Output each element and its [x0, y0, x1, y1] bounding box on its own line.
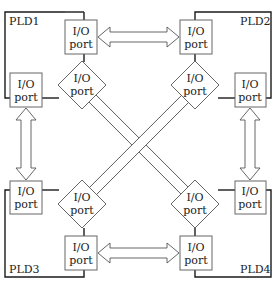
svg-text:port: port: [184, 38, 208, 51]
svg-text:port: port: [183, 85, 207, 98]
svg-text:I/O: I/O: [73, 72, 90, 85]
pld3-port-left: I/O port: [10, 181, 42, 214]
pld4-port-right: I/O port: [235, 181, 266, 214]
pld-interconnect-diagram: PLD1 PLD2 PLD3 PLD4 I/O port I/O port I/…: [0, 0, 277, 289]
pld3-port-bottom: I/O port: [65, 236, 97, 270]
svg-text:I/O: I/O: [17, 78, 34, 91]
svg-text:I/O: I/O: [17, 185, 34, 198]
svg-text:port: port: [69, 38, 93, 51]
svg-text:I/O: I/O: [241, 185, 258, 198]
pld2-port-top: I/O port: [180, 20, 212, 54]
pld4-port-bottom: I/O port: [180, 236, 212, 270]
pld2-label: PLD2: [240, 15, 271, 28]
pld3-label: PLD3: [9, 263, 40, 276]
arrow-pld1-pld3: [16, 108, 36, 180]
svg-text:port: port: [14, 91, 38, 104]
arrow-pld2-pld4: [240, 108, 260, 180]
arrow-pld3-pld4: [98, 243, 179, 263]
svg-text:port: port: [238, 91, 262, 104]
svg-text:I/O: I/O: [186, 72, 203, 85]
svg-text:port: port: [70, 204, 94, 217]
svg-text:I/O: I/O: [187, 25, 204, 38]
svg-text:port: port: [238, 198, 262, 211]
pld1-port-left: I/O port: [10, 73, 42, 107]
pld1-label: PLD1: [9, 15, 40, 28]
svg-text:I/O: I/O: [241, 78, 258, 91]
svg-text:I/O: I/O: [72, 241, 89, 254]
arrow-pld1-pld2: [98, 27, 179, 47]
svg-text:I/O: I/O: [187, 241, 204, 254]
pld4-label: PLD4: [240, 263, 271, 276]
svg-text:I/O: I/O: [186, 191, 203, 204]
pld2-port-right: I/O port: [235, 73, 266, 107]
pld1-port-top: I/O port: [65, 20, 97, 54]
svg-text:port: port: [14, 198, 38, 211]
svg-text:port: port: [183, 204, 207, 217]
svg-text:port: port: [184, 254, 208, 267]
svg-text:port: port: [70, 85, 94, 98]
svg-text:port: port: [69, 254, 93, 267]
svg-text:I/O: I/O: [72, 25, 89, 38]
svg-text:I/O: I/O: [73, 191, 90, 204]
